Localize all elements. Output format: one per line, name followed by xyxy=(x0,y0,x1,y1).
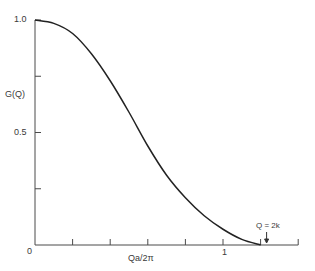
x-axis-title: Qa/2π xyxy=(128,254,154,263)
g-of-q-curve xyxy=(35,20,261,245)
y-axis-title: G(Q) xyxy=(5,90,25,99)
annotation-arrow-icon xyxy=(265,232,269,243)
chart-plot xyxy=(0,0,315,271)
axis-ticks xyxy=(35,20,298,245)
y-tick-label-0-5: 0.5 xyxy=(14,128,27,137)
axes xyxy=(35,20,298,245)
y-tick-label-1: 1.0 xyxy=(14,15,27,24)
annotation-label: Q = 2k xyxy=(256,222,280,230)
origin-label: 0 xyxy=(27,247,32,256)
x-tick-label-1: 1 xyxy=(222,248,227,257)
